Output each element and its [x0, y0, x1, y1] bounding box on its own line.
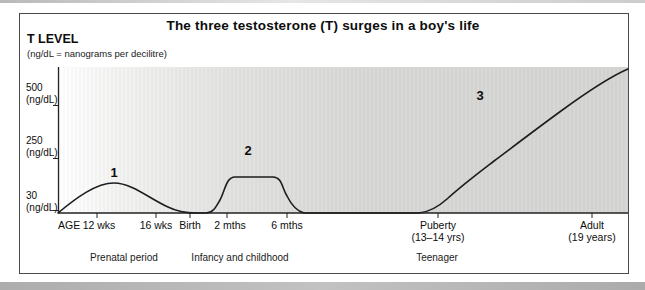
- surge-3-annotation: 3: [476, 88, 483, 103]
- x-tick-birth: Birth: [179, 219, 201, 231]
- y-tick-unit: (ng/dL): [26, 147, 60, 159]
- x-tick-2mths: 2 mths: [214, 219, 246, 231]
- y-axis-title: T LEVEL: [27, 32, 78, 46]
- x-tick-16wks: 16 wks: [140, 219, 173, 231]
- y-axis-subtitle: (ng/dL = nanograms per decilitre): [27, 48, 167, 59]
- y-tick-30: 30 (ng/dL): [26, 190, 60, 213]
- chart-title: The three testosterone (T) surges in a b…: [23, 18, 623, 33]
- y-tick-250: 250 (ng/dL): [26, 135, 60, 158]
- x-tick-sublabel: (13–14 yrs): [411, 231, 464, 243]
- period-label-infancy: Infancy and childhood: [191, 252, 288, 263]
- period-label-teenager: Teenager: [416, 252, 458, 263]
- x-tick-label: Adult: [580, 219, 604, 231]
- page-edge-bottom: [0, 282, 645, 290]
- x-tick-sublabel: (19 years): [568, 231, 615, 243]
- page-edge-top: [0, 0, 645, 3]
- surge-1-annotation: 1: [110, 165, 117, 180]
- y-tick-value: 30: [26, 190, 60, 202]
- y-tick-value: 500: [26, 82, 60, 94]
- surge-2-annotation: 2: [244, 143, 251, 158]
- y-tick-unit: (ng/dL): [26, 202, 60, 214]
- x-tick-6mths: 6 mths: [271, 219, 303, 231]
- figure-page: The three testosterone (T) surges in a b…: [0, 0, 645, 290]
- x-tick-puberty: Puberty (13–14 yrs): [411, 219, 464, 243]
- x-tick-12wks: 12 wks: [83, 219, 116, 231]
- y-tick-500: 500 (ng/dL): [26, 82, 60, 105]
- plot-area: [59, 67, 628, 213]
- x-tick-adult: Adult (19 years): [568, 219, 615, 243]
- period-label-prenatal: Prenatal period: [90, 252, 158, 263]
- y-tick-unit: (ng/dL): [26, 94, 60, 106]
- y-tick-value: 250: [26, 135, 60, 147]
- x-tick-label: Puberty: [420, 219, 456, 231]
- x-axis-age-prefix: AGE: [58, 219, 80, 231]
